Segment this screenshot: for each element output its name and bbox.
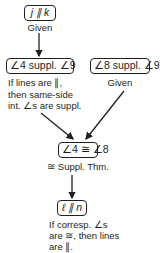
arrow-n2-n4	[41, 113, 73, 139]
statement-box-n5: ℓ ∥ n	[57, 200, 87, 216]
reason-n5-line-1: If corresp. ∠s	[49, 219, 108, 231]
statement-box-n2: ∠4 suppl. ∠9	[6, 58, 74, 74]
reason-n3: Given	[100, 77, 140, 89]
statement-box-n1: j ∥ k	[24, 5, 56, 21]
reason-n2-line-3: int. ∠s are suppl.	[8, 100, 81, 112]
reason-n1: Given	[20, 22, 60, 34]
statement-box-n4: ∠4 ≅ ∠8	[58, 142, 98, 158]
arrow-n3-n4	[86, 91, 124, 139]
statement-box-n3: ∠8 suppl. ∠9	[90, 58, 150, 74]
reason-n2-line-2: then same-side	[8, 89, 73, 101]
reason-n4: ≅ Suppl. Thm.	[44, 161, 112, 173]
reason-n5-line-3: are ∥.	[49, 241, 73, 253]
reason-n5-line-2: are ≅, then lines	[49, 230, 119, 242]
reason-n2-line-1: If lines are ∥,	[8, 77, 62, 89]
